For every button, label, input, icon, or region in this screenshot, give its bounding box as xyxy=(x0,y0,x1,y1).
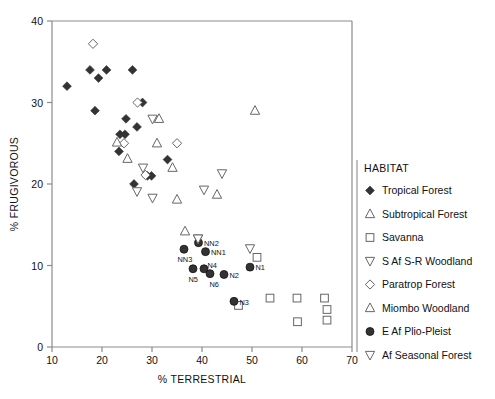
x-tick-label: 40 xyxy=(196,354,208,366)
x-tick-label: 70 xyxy=(346,354,358,366)
data-point-label: N3 xyxy=(240,298,249,307)
data-point xyxy=(128,65,137,74)
data-point xyxy=(102,65,111,74)
legend-item-label: Subtropical Forest xyxy=(382,208,467,220)
data-point xyxy=(115,147,124,156)
x-tick-label: 10 xyxy=(46,354,58,366)
legend-marker xyxy=(365,257,374,266)
data-point-label: N4 xyxy=(208,261,217,270)
data-point xyxy=(323,306,331,314)
data-point xyxy=(217,170,226,179)
data-point xyxy=(245,245,254,254)
scatter-plot-figure: 10203040506070010203040% TERRESTRIAL% FR… xyxy=(0,0,495,399)
legend-item-s-af-s-r-woodland[interactable]: S Af S-R Woodland xyxy=(365,255,472,267)
data-point xyxy=(199,186,208,195)
legend-item-subtropical-forest[interactable]: Subtropical Forest xyxy=(365,208,467,220)
legend-title: HABITAT xyxy=(364,162,409,174)
data-point xyxy=(123,154,132,163)
data-point xyxy=(246,263,254,271)
legend-item-paratrop-forest[interactable]: Paratrop Forest xyxy=(365,278,455,290)
data-point xyxy=(168,163,177,172)
legend-item-e-af-plio-pleist[interactable]: E Af Plio-Pleist xyxy=(366,325,451,337)
data-point xyxy=(172,139,181,148)
legend-item-af-seasonal-forest[interactable]: Af Seasonal Forest xyxy=(365,349,471,361)
y-tick-label: 0 xyxy=(37,341,43,353)
data-point xyxy=(220,270,228,278)
legend-item-label: Paratrop Forest xyxy=(382,278,455,290)
legend-marker xyxy=(365,303,374,312)
x-axis-title: % TERRESTRIAL xyxy=(158,373,246,385)
data-point xyxy=(121,130,130,139)
data-point xyxy=(321,294,329,302)
data-point xyxy=(180,245,188,253)
data-point xyxy=(152,138,161,147)
legend-item-savanna[interactable]: Savanna xyxy=(366,231,423,243)
series-tropical-forest xyxy=(63,65,172,188)
legend-item-tropical-forest[interactable]: Tropical Forest xyxy=(366,184,452,196)
data-point xyxy=(172,194,181,203)
legend-item-label: E Af Plio-Pleist xyxy=(382,325,451,337)
data-point xyxy=(253,253,261,261)
y-axis-title: % FRUGIVOROUS xyxy=(8,137,20,231)
data-point xyxy=(250,106,259,115)
series-miombo-woodland xyxy=(112,137,189,235)
data-point xyxy=(202,248,210,256)
legend-item-label: Tropical Forest xyxy=(382,184,452,196)
data-point-label: N5 xyxy=(189,275,198,284)
legend-item-label: Savanna xyxy=(382,231,424,243)
axes-group: 10203040506070010203040% TERRESTRIAL% FR… xyxy=(8,15,358,385)
data-point xyxy=(88,39,97,48)
legend-marker xyxy=(366,234,374,242)
data-point xyxy=(91,106,100,115)
data-point-label: NN2 xyxy=(204,239,219,248)
data-point xyxy=(212,190,221,199)
data-point xyxy=(63,82,72,91)
data-point xyxy=(94,74,103,83)
data-point xyxy=(122,114,131,123)
data-point xyxy=(148,194,157,203)
data-point-label: N6 xyxy=(210,280,219,289)
data-point xyxy=(163,155,172,164)
data-point xyxy=(323,316,331,324)
x-tick-label: 50 xyxy=(246,354,258,366)
legend-item-miombo-woodland[interactable]: Miombo Woodland xyxy=(365,302,469,314)
data-point-label: NN3 xyxy=(178,255,193,264)
legend-item-label: Af Seasonal Forest xyxy=(382,349,471,361)
legend-marker xyxy=(366,328,374,336)
x-tick-label: 20 xyxy=(96,354,108,366)
x-tick-label: 30 xyxy=(146,354,158,366)
y-tick-label: 10 xyxy=(31,260,43,272)
y-tick-label: 40 xyxy=(31,15,43,27)
legend-item-label: Miombo Woodland xyxy=(382,302,470,314)
legend-marker xyxy=(365,280,374,289)
data-point-label: N2 xyxy=(230,271,239,280)
data-point xyxy=(86,65,95,74)
data-point xyxy=(133,98,142,107)
data-point-label: NN1 xyxy=(211,248,226,257)
data-point xyxy=(189,265,197,273)
legend-marker xyxy=(366,186,375,195)
data-point xyxy=(132,188,141,197)
data-point xyxy=(130,180,139,189)
legend-item-label: S Af S-R Woodland xyxy=(382,255,472,267)
data-point xyxy=(180,226,189,235)
data-point xyxy=(266,294,274,302)
data-point xyxy=(133,123,142,132)
data-point xyxy=(293,294,301,302)
legend-marker xyxy=(365,209,374,218)
data-point xyxy=(294,318,302,326)
legend: HABITATTropical ForestSubtropical Forest… xyxy=(357,160,472,361)
data-point xyxy=(206,270,214,278)
data-point-label: N1 xyxy=(256,263,265,272)
data-point xyxy=(230,297,238,305)
series-s-af-s-r-woodland xyxy=(132,115,254,253)
x-tick-label: 60 xyxy=(296,354,308,366)
legend-marker xyxy=(365,351,374,360)
y-tick-label: 20 xyxy=(31,178,43,190)
y-tick-label: 30 xyxy=(31,97,43,109)
figure-canvas: 10203040506070010203040% TERRESTRIAL% FR… xyxy=(0,0,495,399)
data-points-group: NN3NN2NN1N5N4N6N2N1N3 xyxy=(63,39,331,325)
